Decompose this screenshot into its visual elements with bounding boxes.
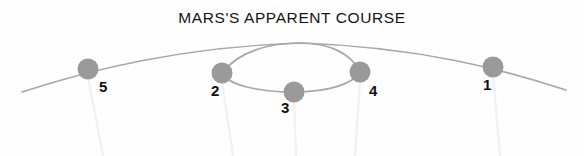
position-label-3: 3 — [281, 100, 289, 115]
position-marker-2[interactable] — [212, 63, 233, 84]
sightline-3 — [294, 99, 296, 156]
position-marker-4[interactable] — [350, 62, 371, 83]
position-label-1: 1 — [483, 77, 491, 92]
position-marker-5[interactable] — [78, 59, 99, 80]
sightline-2 — [222, 81, 233, 156]
position-marker-1[interactable] — [483, 57, 504, 78]
sightline-4 — [355, 80, 360, 156]
position-label-4: 4 — [369, 83, 377, 98]
position-label-2: 2 — [211, 83, 219, 98]
position-markers-group — [78, 57, 504, 103]
position-label-5: 5 — [99, 79, 107, 94]
mars-apparent-course-figure: MARS'S APPARENT COURSE 1 2 3 4 5 — [0, 0, 584, 156]
figure-title: MARS'S APPARENT COURSE — [0, 9, 584, 27]
sightline-1 — [493, 74, 500, 156]
